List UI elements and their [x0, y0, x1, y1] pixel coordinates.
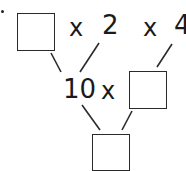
answer-box-bottom-result[interactable]: [92, 134, 130, 171]
connector-blank-to-10: [51, 53, 61, 72]
connector-10-to-result: [82, 105, 100, 130]
product-10: 10: [63, 76, 96, 102]
multiply-operator-1: x: [69, 16, 83, 40]
factor-2: 2: [102, 12, 119, 38]
answer-box-middle-right[interactable]: [129, 71, 167, 109]
factor-4: 4: [174, 12, 186, 38]
multiply-operator-3: x: [101, 79, 115, 103]
connector-4-to-blank: [157, 44, 172, 67]
connector-blank-to-result: [122, 111, 132, 130]
multiply-operator-2: x: [143, 16, 157, 40]
answer-box-top-left[interactable]: [17, 13, 55, 51]
connector-2-to-10: [80, 43, 99, 72]
